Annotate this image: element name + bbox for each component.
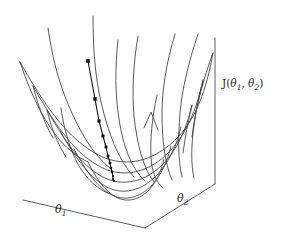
descent-marker (86, 59, 90, 63)
y-axis-symbol: θ (177, 192, 184, 205)
y-axis-label: θ2 (177, 193, 188, 204)
x-axis-subscript: 1 (62, 209, 67, 218)
descent-marker (105, 146, 108, 149)
cost-function-figure: θ1 θ2 J(θ1, θ2) (0, 0, 282, 242)
plot-background (0, 0, 282, 242)
descent-marker (109, 162, 112, 165)
descent-marker (111, 171, 113, 173)
x-axis-label: θ1 (55, 204, 66, 215)
x-axis-symbol: θ (55, 203, 62, 216)
descent-marker (112, 178, 114, 180)
z-axis-first-subscript: 1 (237, 83, 242, 92)
descent-marker (93, 97, 96, 100)
surface-plot-canvas (0, 0, 282, 242)
descent-marker (113, 180, 115, 182)
descent-marker (97, 119, 100, 122)
descent-marker (101, 134, 104, 137)
z-axis-suffix: ) (259, 77, 263, 89)
descent-marker (110, 167, 112, 169)
z-axis-first-symbol: θ (230, 77, 236, 89)
descent-marker (107, 155, 110, 158)
z-axis-label: J(θ1, θ2) (222, 78, 263, 89)
y-axis-subscript: 2 (184, 198, 189, 207)
z-axis-second-subscript: 2 (254, 83, 259, 92)
descent-marker (112, 175, 114, 177)
